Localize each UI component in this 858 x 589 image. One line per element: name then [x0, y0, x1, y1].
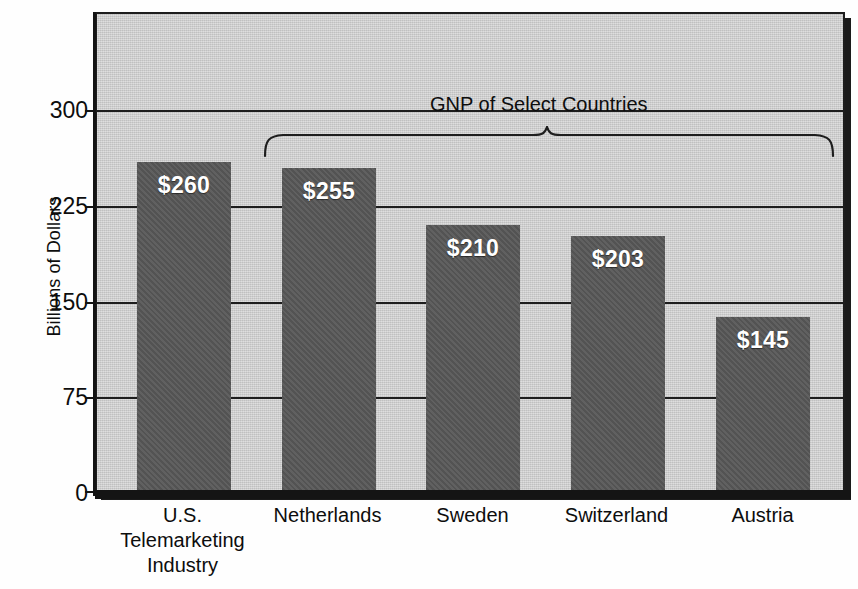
- y-tick-label-300: 300: [18, 99, 88, 122]
- gnp-bar-chart: Billions of Dollars 300 225 150 75 0 $26…: [0, 0, 858, 589]
- y-axis-tick-labels: 300 225 150 75 0: [10, 0, 88, 589]
- x-axis-baseline: [95, 490, 851, 499]
- bar-austria: $145: [716, 317, 810, 492]
- bar-value-netherlands: $255: [282, 178, 376, 205]
- y-tick-label-75: 75: [18, 386, 88, 409]
- x-tick-label-line1: U.S.: [105, 503, 260, 528]
- bar-value-austria: $145: [716, 327, 810, 354]
- x-tick-label-line1: Austria: [685, 503, 840, 528]
- y-tick-label-225: 225: [18, 195, 88, 218]
- x-tick-label-line2: Telemarketing: [105, 528, 260, 553]
- bar-value-switzerland: $203: [571, 246, 665, 273]
- y-tick-label-0: 0: [18, 482, 88, 505]
- annotation-brace: [255, 126, 840, 160]
- bar-us-telemarketing-industry: $260: [137, 162, 231, 492]
- annotation-label-gnp-of-select-countries: GNP of Select Countries: [430, 93, 648, 116]
- x-tick-label-line1: Sweden: [395, 503, 550, 528]
- x-axis-tick-labels: U.S. Telemarketing Industry Netherlands …: [95, 503, 851, 589]
- x-tick-label-sweden: Sweden: [395, 503, 550, 528]
- plot-area: $260 $255 $210 $203 $145: [95, 12, 845, 494]
- x-tick-label-austria: Austria: [685, 503, 840, 528]
- x-tick-label-line3: Industry: [105, 553, 260, 578]
- y-tick-label-150: 150: [18, 291, 88, 314]
- x-tick-label-switzerland: Switzerland: [539, 503, 694, 528]
- bar-value-us-telemarketing-industry: $260: [137, 172, 231, 199]
- bar-switzerland: $203: [571, 236, 665, 492]
- x-tick-label-netherlands: Netherlands: [250, 503, 405, 528]
- bar-netherlands: $255: [282, 168, 376, 492]
- y-axis-line: [93, 12, 96, 496]
- bar-value-sweden: $210: [426, 235, 520, 262]
- x-tick-label-line1: Netherlands: [250, 503, 405, 528]
- bar-sweden: $210: [426, 225, 520, 492]
- x-tick-label-line1: Switzerland: [539, 503, 694, 528]
- x-tick-label-us-telemarketing-industry: U.S. Telemarketing Industry: [105, 503, 260, 577]
